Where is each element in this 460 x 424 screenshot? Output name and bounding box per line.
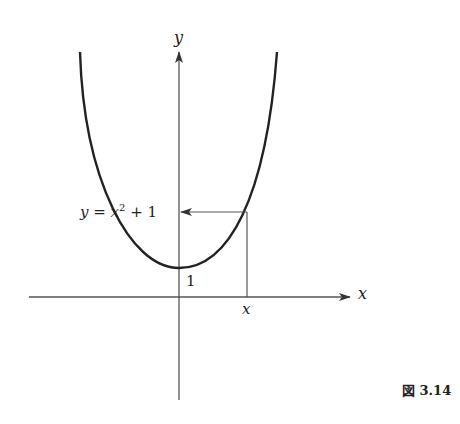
diagram-canvas bbox=[0, 0, 460, 424]
y-axis-label: y bbox=[174, 28, 183, 47]
equation-label: y = x2 + 1 bbox=[80, 202, 157, 221]
x-axis-label: x bbox=[358, 284, 367, 303]
equation-tail: + 1 bbox=[130, 203, 157, 221]
equation-lhs: y = bbox=[80, 203, 106, 221]
x-marker-label: x bbox=[242, 300, 250, 318]
figure-caption: 図 3.14 bbox=[402, 380, 451, 399]
equation-exponent: 2 bbox=[119, 202, 125, 213]
y-intercept-label: 1 bbox=[186, 272, 196, 290]
equation-base: x bbox=[111, 203, 119, 221]
